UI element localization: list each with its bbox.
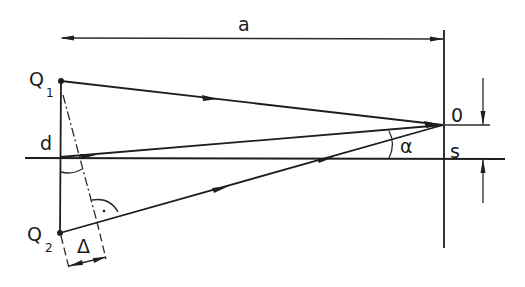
right-angle-dot (103, 210, 106, 213)
ray-q1 (61, 81, 443, 125)
optical-axis (25, 158, 505, 159)
arrow-right-icon (430, 37, 444, 42)
svg-text:2: 2 (45, 241, 53, 255)
arrow-down-icon (481, 111, 486, 125)
label-s: s (450, 140, 460, 162)
svg-text:1: 1 (46, 86, 54, 100)
dimension-s: s (450, 78, 486, 203)
angle-alpha-arc (389, 131, 393, 158)
label-alpha: α (400, 135, 413, 157)
label-delta: Δ (77, 235, 90, 257)
label-d: d (40, 132, 52, 154)
path-difference-box: Δ (61, 222, 106, 268)
arrow-left-icon (60, 36, 74, 41)
delta-arrow-icon (69, 260, 83, 266)
svg-text:Q: Q (27, 223, 42, 245)
label-q2: Q 2 (27, 223, 53, 255)
ray-arrow-icon (212, 186, 229, 193)
diagram-canvas: a s 0 α (0, 0, 525, 287)
label-q1: Q 1 (29, 68, 54, 100)
arrow-up-icon (481, 159, 486, 173)
svg-text:Q: Q (29, 68, 44, 90)
source-q2-point (57, 230, 63, 236)
label-a: a (238, 13, 250, 35)
label-observer: 0 (451, 104, 463, 126)
source-q1-point (58, 78, 64, 84)
dimension-a: a (60, 13, 444, 42)
angle-arc-small (61, 169, 82, 173)
delta-arrow-icon (93, 257, 106, 263)
right-angle-marker (92, 200, 118, 213)
